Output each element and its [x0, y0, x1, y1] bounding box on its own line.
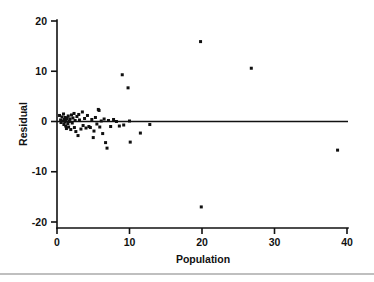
scatter-point	[101, 132, 104, 135]
scatter-point	[115, 120, 118, 123]
scatter-point	[106, 147, 109, 150]
x-tick-label: 40	[341, 236, 353, 248]
scatter-point	[118, 125, 121, 128]
scatter-point	[148, 123, 151, 126]
scatter-point	[73, 112, 76, 115]
scatter-point	[121, 73, 124, 76]
scatter-point	[89, 126, 92, 129]
scatter-point	[78, 118, 81, 121]
scatter-point	[139, 132, 142, 135]
scatter-point	[92, 136, 95, 139]
scatter-point	[74, 119, 77, 122]
scatter-point	[127, 86, 130, 89]
x-tick-label: 0	[54, 236, 60, 248]
plot-canvas: 20100-10-20 010203040 Residual Populatio…	[0, 0, 374, 282]
scatter-point	[67, 114, 70, 117]
x-axis-title-text: Population	[176, 253, 230, 265]
y-axis-title-text: Residual	[17, 102, 29, 146]
x-tick-label: 30	[269, 236, 281, 248]
y-tick-label: 20	[35, 15, 47, 27]
scatter-plot-figure: 20100-10-20 010203040 Residual Populatio…	[0, 0, 374, 282]
scatter-point	[77, 113, 80, 116]
scatter-point	[92, 130, 95, 133]
scatter-point	[71, 122, 74, 125]
x-tick-label: 10	[124, 236, 136, 248]
scatter-point	[81, 110, 84, 113]
scatter-point	[112, 118, 115, 121]
scatter-point	[98, 126, 101, 129]
scatter-point	[90, 118, 93, 121]
x-tick-label: 20	[196, 236, 208, 248]
x-axis-title: Population	[176, 253, 230, 265]
scatter-point	[62, 112, 65, 115]
y-tick-label: -20	[32, 216, 47, 228]
scatter-point	[74, 130, 77, 133]
scatter-point	[122, 124, 125, 127]
scatter-point	[200, 205, 203, 208]
scatter-point	[100, 119, 103, 122]
scatter-point	[128, 119, 131, 122]
scatter-point	[82, 124, 85, 127]
scatter-point	[250, 67, 253, 70]
y-tick-label: -10	[32, 165, 47, 177]
scatter-point	[69, 128, 72, 131]
scatter-point	[199, 40, 202, 43]
scatter-point	[336, 149, 339, 152]
scatter-point	[94, 116, 97, 119]
scatter-point	[83, 117, 86, 120]
y-axis-title: Residual	[17, 102, 29, 146]
scatter-point	[95, 123, 98, 126]
scatter-point	[98, 109, 101, 112]
scatter-point	[69, 117, 72, 120]
y-tick-label: 10	[35, 65, 47, 77]
scatter-point	[77, 134, 80, 137]
y-tick-label: 0	[41, 115, 47, 127]
scatter-point	[85, 127, 88, 130]
scatter-point	[107, 119, 110, 122]
scatter-point	[79, 128, 82, 131]
scatter-point	[103, 117, 106, 120]
scatter-point	[129, 141, 132, 144]
scatter-point	[86, 114, 89, 117]
scatter-point	[109, 125, 112, 128]
scatter-point	[104, 141, 107, 144]
scatter-point	[73, 126, 76, 129]
